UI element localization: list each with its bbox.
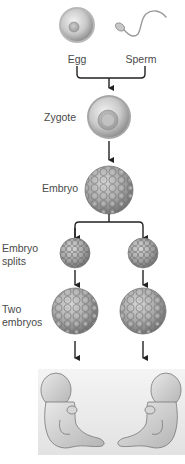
embryo-splits-label-line1: Embryo: [2, 242, 38, 254]
embryo-cluster: [85, 166, 133, 214]
sperm-label: Sperm: [126, 53, 157, 65]
two-embryos-label-line2: embryos: [2, 316, 42, 328]
egg-label: Egg: [68, 53, 87, 65]
zygote-label: Zygote: [44, 111, 76, 123]
zygote-cell: [87, 95, 131, 139]
embryo-label: Embryo: [42, 182, 78, 194]
two-embryos-label-line1: Two: [2, 303, 21, 315]
twin-fetuses-panel: [38, 369, 185, 455]
split-embryo-left: [60, 238, 90, 268]
split-arrow: [75, 214, 143, 238]
twinning-diagram: [0, 0, 185, 464]
egg-cell: [59, 7, 95, 43]
sperm-cell: [114, 11, 166, 36]
embryo-right: [120, 288, 166, 334]
embryo-left: [52, 288, 98, 334]
embryo-splits-label-line2: splits: [2, 255, 26, 267]
split-embryo-right: [128, 238, 158, 268]
fertilization-arrow: [77, 66, 145, 88]
